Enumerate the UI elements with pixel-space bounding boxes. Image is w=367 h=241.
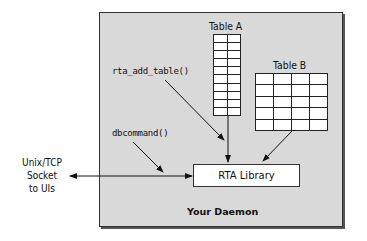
table-a-grid xyxy=(213,34,241,116)
table-cell xyxy=(274,74,292,85)
table-cell xyxy=(310,108,328,119)
table-row xyxy=(214,35,241,43)
table-cell xyxy=(227,51,241,59)
table-cell xyxy=(256,108,274,119)
table-row xyxy=(214,43,241,51)
daemon-label: Your Daemon xyxy=(187,206,258,217)
table-cell xyxy=(214,43,228,51)
table-cell xyxy=(227,91,241,99)
table-row xyxy=(214,107,241,115)
table-b-title: Table B xyxy=(273,59,306,71)
table-cell xyxy=(256,85,274,96)
socket-label-line-3: to UIs xyxy=(17,182,67,195)
table-cell xyxy=(214,67,228,75)
rta-architecture-diagram: Table A Table B rta_add_table() dbcomman… xyxy=(0,0,367,241)
table-cell xyxy=(227,83,241,91)
table-cell xyxy=(310,74,328,85)
table-cell xyxy=(214,83,228,91)
table-cell xyxy=(292,74,310,85)
table-row xyxy=(256,108,328,119)
table-cell xyxy=(256,119,274,130)
table-cell xyxy=(256,74,274,85)
table-cell xyxy=(227,107,241,115)
table-row xyxy=(214,51,241,59)
table-cell xyxy=(227,35,241,43)
table-row xyxy=(214,59,241,67)
table-row xyxy=(214,67,241,75)
table-row xyxy=(256,74,328,85)
table-cell xyxy=(292,108,310,119)
table-cell xyxy=(274,119,292,130)
table-a-title: Table A xyxy=(209,20,242,32)
table-cell xyxy=(214,59,228,67)
table-cell xyxy=(227,75,241,83)
table-cell xyxy=(292,96,310,107)
table-cell xyxy=(256,96,274,107)
table-cell xyxy=(292,119,310,130)
table-cell xyxy=(310,96,328,107)
socket-label-line-2: Socket xyxy=(17,169,67,182)
table-cell xyxy=(214,35,228,43)
table-cell xyxy=(227,59,241,67)
table-cell xyxy=(274,85,292,96)
socket-label-line-1: Unix/TCP xyxy=(17,156,67,169)
table-b-grid xyxy=(255,73,328,131)
table-cell xyxy=(274,96,292,107)
table-row xyxy=(256,96,328,107)
table-cell xyxy=(214,75,228,83)
dbcommand-label: dbcommand() xyxy=(112,128,168,138)
table-cell xyxy=(274,108,292,119)
table-row xyxy=(214,75,241,83)
rta-library-box: RTA Library xyxy=(193,164,300,187)
table-cell xyxy=(214,51,228,59)
table-cell xyxy=(310,85,328,96)
table-cell xyxy=(214,99,228,107)
rta-add-table-label: rta_add_table() xyxy=(112,66,189,76)
socket-label: Unix/TCP Socket to UIs xyxy=(17,156,67,195)
table-cell xyxy=(227,43,241,51)
table-cell xyxy=(310,119,328,130)
table-row xyxy=(214,83,241,91)
table-cell xyxy=(227,67,241,75)
table-row xyxy=(214,99,241,107)
table-cell xyxy=(214,107,228,115)
rta-library-label: RTA Library xyxy=(218,170,275,181)
table-cell xyxy=(227,99,241,107)
table-row xyxy=(256,85,328,96)
table-cell xyxy=(292,85,310,96)
table-row xyxy=(214,91,241,99)
table-row xyxy=(256,119,328,130)
table-cell xyxy=(214,91,228,99)
